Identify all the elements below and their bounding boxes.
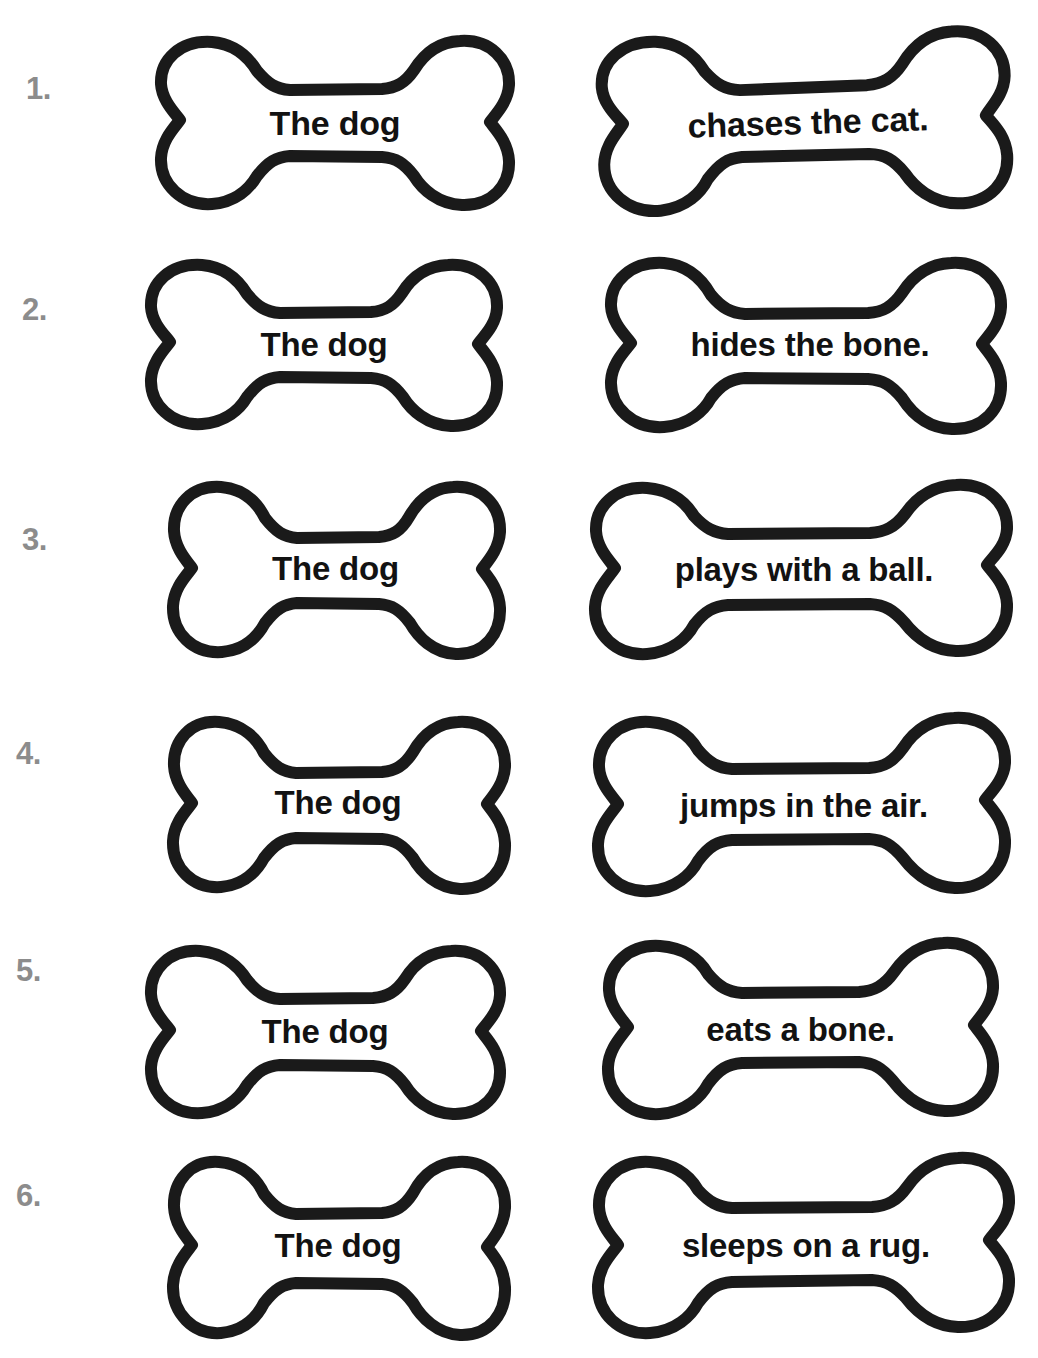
bone-card-predicate-6[interactable]: sleeps on a rug. bbox=[588, 1148, 1024, 1344]
worksheet-row: 5. The dog eats a bone. bbox=[0, 918, 1038, 1140]
bone-card-subject-6[interactable]: The dog bbox=[163, 1148, 513, 1344]
row-number-3: 3. bbox=[22, 524, 47, 555]
bone-shape-icon bbox=[140, 938, 510, 1126]
bone-shape-icon bbox=[585, 474, 1023, 666]
bone-card-predicate-5[interactable]: eats a bone. bbox=[598, 932, 1003, 1127]
worksheet-row: 4. The dog jumps in the air. bbox=[0, 690, 1038, 918]
bone-card-predicate-1[interactable]: chases the cat. bbox=[589, 15, 1027, 228]
bone-shape-icon bbox=[163, 1148, 513, 1344]
bone-shape-icon bbox=[588, 708, 1020, 903]
worksheet-row: 6. The dog sleeps on a rug. bbox=[0, 1140, 1038, 1358]
bone-card-subject-1[interactable]: The dog bbox=[150, 28, 520, 218]
row-number-5: 5. bbox=[16, 955, 41, 986]
row-number-2: 2. bbox=[22, 294, 47, 325]
row-number-6: 6. bbox=[16, 1180, 41, 1211]
worksheet-row: 2. The dog hides the bone. bbox=[0, 238, 1038, 462]
worksheet-page: 1. The dog chases the cat. 2. The dog bbox=[0, 0, 1038, 1358]
row-number-1: 1. bbox=[26, 73, 51, 104]
row-number-4: 4. bbox=[16, 738, 41, 769]
bone-card-subject-3[interactable]: The dog bbox=[163, 474, 508, 664]
bone-card-subject-4[interactable]: The dog bbox=[163, 708, 513, 898]
bone-shape-icon bbox=[589, 15, 1027, 228]
bone-shape-icon bbox=[163, 708, 513, 898]
bone-shape-icon bbox=[140, 252, 508, 438]
bone-card-predicate-2[interactable]: hides the bone. bbox=[600, 250, 1020, 440]
worksheet-row: 1. The dog chases the cat. bbox=[0, 0, 1038, 238]
worksheet-row: 3. The dog plays with a ball. bbox=[0, 462, 1038, 690]
bone-card-predicate-3[interactable]: plays with a ball. bbox=[585, 474, 1023, 666]
bone-card-subject-5[interactable]: The dog bbox=[140, 938, 510, 1126]
bone-card-predicate-4[interactable]: jumps in the air. bbox=[588, 708, 1020, 903]
bone-shape-icon bbox=[163, 474, 508, 664]
bone-shape-icon bbox=[150, 28, 520, 218]
bone-card-subject-2[interactable]: The dog bbox=[140, 252, 508, 438]
bone-shape-icon bbox=[598, 932, 1003, 1127]
bone-shape-icon bbox=[588, 1148, 1024, 1344]
bone-shape-icon bbox=[600, 250, 1020, 440]
